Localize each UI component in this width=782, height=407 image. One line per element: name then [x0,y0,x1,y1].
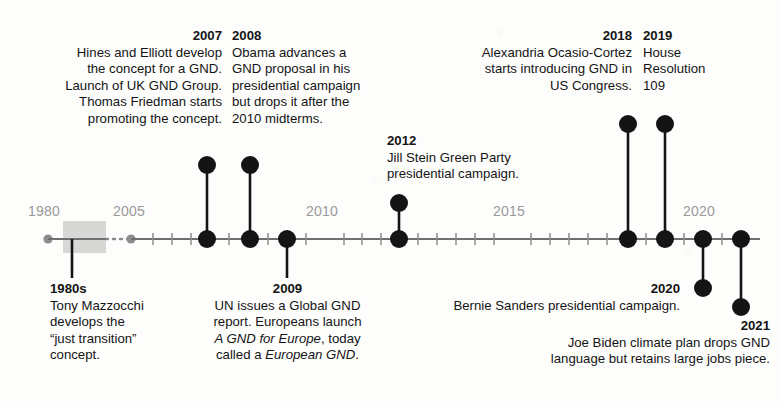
dot-2009-axis [278,230,296,248]
dot-2019-end [656,115,674,133]
dot-2012-axis [390,230,408,248]
dot-2012-end [390,194,408,212]
event-note-2009: 2009 UN issues a Global GND report. Euro… [185,281,390,364]
event-line-italic: A GND for Europe [214,331,321,346]
dot-2019-axis [656,230,674,248]
axis-label-2015: 2015 [493,203,525,219]
axis-label-2010: 2010 [306,203,338,219]
event-year-2012: 2012 [387,133,587,150]
dot-2007-end [198,156,216,174]
event-line: starts introducing GND in [485,61,632,76]
event-year-2018: 2018 [436,28,632,45]
timeline-figure: 1980 2005 2010 2015 2020 2007 Hines and … [0,0,782,407]
event-year-2008: 2008 [232,28,412,45]
event-line-tail: . [355,347,359,362]
event-year-2009: 2009 [185,281,390,298]
event-line: but drops it after the [232,94,349,109]
event-line: Alexandria Ocasio-Cortez [482,45,632,60]
event-line: Tony Mazzocchi [50,298,144,313]
event-line-italic: European GND [265,347,355,362]
event-line: Resolution [643,61,705,76]
event-line: promoting the concept. [88,111,222,126]
event-note-2008: 2008 Obama advances a GND proposal in hi… [232,28,412,128]
event-year-2021: 2021 [430,318,770,335]
event-line: develops the [50,314,125,329]
event-line: Hines and Elliott develop [77,45,222,60]
dot-2021-axis [732,230,750,248]
dot-2021-end [732,298,750,316]
event-year-2020: 2020 [430,281,680,298]
event-line-lead: called a [216,347,265,362]
event-note-2007: 2007 Hines and Elliott develop the conce… [14,28,222,128]
event-line: presidential campaign. [387,166,519,181]
event-line: language but retains large jobs piece. [551,351,770,366]
event-line: GND proposal in his [232,61,350,76]
event-line: 109 [643,78,665,93]
axis-label-1980: 1980 [28,203,60,219]
event-line: “just transition” [50,331,136,346]
event-line: Launch of UK GND Group. [65,78,222,93]
event-line: 2010 midterms. [232,111,323,126]
event-line: concept. [50,347,100,362]
event-year-2007: 2007 [14,28,222,45]
event-note-2019: 2019 House Resolution 109 [643,28,763,94]
event-line: presidential campaign [232,78,360,93]
event-note-2012: 2012 Jill Stein Green Party presidential… [387,133,587,183]
dot-2008-end [241,156,259,174]
event-note-2021: 2021 Joe Biden climate plan drops GND la… [430,318,770,368]
event-line: Bernie Sanders presidential campaign. [453,298,680,313]
decade-highlight-box [63,221,106,253]
dot-2007-axis [198,230,216,248]
event-line-tail: , today [321,331,361,346]
axis-label-2005: 2005 [113,203,145,219]
dot-2020-axis [694,230,712,248]
event-line: Obama advances a [232,45,346,60]
event-note-2018: 2018 Alexandria Ocasio-Cortez starts int… [436,28,632,94]
event-line: Joe Biden climate plan drops GND [568,335,770,350]
event-line: US Congress. [550,78,632,93]
event-line: the concept for a GND. [87,61,222,76]
event-line: report. Europeans launch [213,314,361,329]
event-year-2019: 2019 [643,28,763,45]
event-line: Thomas Friedman starts [79,94,222,109]
event-note-2020: 2020 Bernie Sanders presidential campaig… [430,281,680,314]
event-line: Jill Stein Green Party [387,150,511,165]
dot-2008-axis [241,230,259,248]
event-line: House [643,45,681,60]
dot-2018-axis [619,230,637,248]
axis-label-2020: 2020 [683,203,715,219]
dot-2020-end [694,279,712,297]
event-line: UN issues a Global GND [215,298,361,313]
dot-2018-end [619,115,637,133]
